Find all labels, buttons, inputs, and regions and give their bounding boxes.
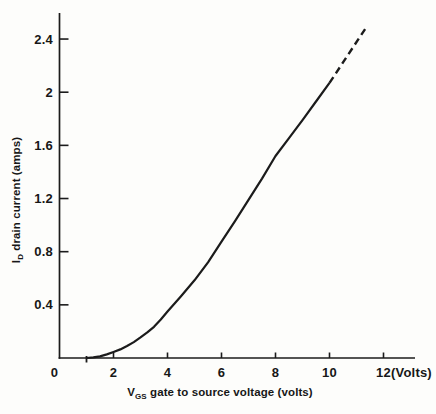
x-tick-label: 8 [272,365,279,380]
x-axis-title-text: gate to source voltage (volts) [147,386,313,398]
chart-canvas: 246810122.421.61.20.80.4 0 (Volts) VGS g… [0,0,436,414]
mosfet-transfer-characteristic-figure: 246810122.421.61.20.80.4 0 (Volts) VGS g… [0,0,436,414]
x-tick-label: 4 [164,365,172,380]
x-tick-label: 10 [322,365,337,380]
y-axis-title: ID drain current (amps) [10,137,25,263]
curves [87,26,368,358]
x-tick-label: 2 [110,365,117,380]
y-tick-label: 0.8 [34,244,53,259]
tick-labels: 246810122.421.61.20.80.4 [34,32,391,380]
y-tick-label: 2.4 [34,32,53,47]
y-tick-label: 0.4 [34,297,53,312]
x-tick-label: 12 [376,365,391,380]
x-axis-unit-label: (Volts) [391,365,432,380]
x-tick-label: 6 [218,365,225,380]
transfer-curve-solid [87,83,330,358]
tick-marks [60,39,384,358]
x-axis-title-subscript: GS [135,392,147,401]
y-tick-label: 1.6 [34,138,53,153]
y-tick-label: 1.2 [34,191,53,206]
y-tick-label: 2 [46,85,53,100]
x-axis-title: VGS gate to source voltage (volts) [127,386,313,401]
x-origin-label: 0 [51,365,58,380]
y-axis-title-text: drain current (amps) [10,137,22,254]
transfer-curve-dashed-extension [330,26,368,83]
